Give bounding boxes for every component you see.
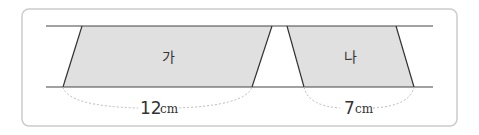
shape-na-label: 나	[344, 49, 357, 65]
na-base-unit: cm	[355, 102, 374, 116]
shape-ga-label: 가	[162, 49, 175, 65]
ga-base-unit: cm	[160, 102, 179, 116]
na-base-value: 7	[344, 98, 355, 118]
parallelogram-diagram: 가 나 12 cm 7 cm	[0, 0, 479, 135]
ga-base-value: 12	[140, 98, 162, 118]
